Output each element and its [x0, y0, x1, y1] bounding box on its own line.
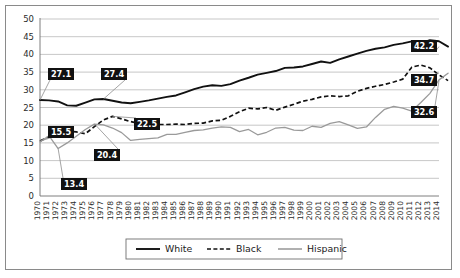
x-tick-1984: 1984 [160, 201, 169, 220]
x-tick-1998: 1998 [287, 201, 296, 220]
x-tick-1985: 1985 [169, 201, 178, 220]
line-chart: 0510152025303540455019701971197219731974… [6, 6, 451, 269]
y-tick-45: 45 [23, 32, 34, 42]
y-tick-25: 25 [23, 103, 34, 113]
callout-leader-13.4 [58, 149, 63, 178]
legend-label-hispanic: Hispanic [307, 243, 347, 254]
y-tick-15: 15 [23, 138, 34, 148]
x-tick-2003: 2003 [332, 201, 341, 220]
x-tick-1982: 1982 [142, 201, 151, 220]
legend-label-white: White [165, 243, 192, 254]
x-tick-1997: 1997 [278, 201, 287, 220]
x-tick-1979: 1979 [115, 201, 124, 220]
x-tick-1972: 1972 [51, 201, 60, 220]
x-tick-1983: 1983 [151, 201, 160, 220]
x-tick-1986: 1986 [178, 201, 187, 220]
x-tick-1975: 1975 [78, 201, 87, 220]
x-tick-2014: 2014 [432, 201, 441, 220]
x-tick-2005: 2005 [350, 201, 359, 220]
x-tick-1987: 1987 [187, 201, 196, 220]
x-tick-1990: 1990 [214, 201, 223, 220]
callout-leader-20.4 [94, 124, 118, 149]
callout-label-34.7: 34.7 [414, 75, 435, 85]
x-tick-2006: 2006 [359, 201, 368, 220]
x-tick-2002: 2002 [323, 201, 332, 220]
callout-label-27.4: 27.4 [104, 69, 125, 79]
x-tick-1988: 1988 [196, 201, 205, 220]
y-tick-50: 50 [23, 14, 34, 24]
y-tick-20: 20 [23, 120, 34, 130]
callout-label-22.5: 22.5 [137, 119, 158, 129]
x-tick-2013: 2013 [423, 201, 432, 220]
x-tick-2007: 2007 [369, 201, 378, 220]
callout-label-15.5: 15.5 [51, 127, 72, 137]
y-tick-40: 40 [23, 49, 34, 59]
callout-label-42.2: 42.2 [414, 41, 434, 51]
x-tick-2011: 2011 [405, 201, 414, 220]
x-tick-2009: 2009 [387, 201, 396, 220]
x-tick-1994: 1994 [251, 201, 260, 220]
x-tick-1989: 1989 [205, 201, 214, 220]
callout-label-20.4: 20.4 [97, 150, 118, 160]
x-tick-2012: 2012 [414, 201, 423, 220]
callout-label-27.1: 27.1 [51, 69, 72, 79]
callout-label-13.4: 13.4 [64, 179, 85, 189]
y-tick-10: 10 [23, 156, 34, 166]
x-tick-1995: 1995 [260, 201, 269, 220]
x-tick-2010: 2010 [396, 201, 405, 220]
x-tick-1978: 1978 [106, 201, 115, 220]
x-tick-2004: 2004 [341, 201, 350, 220]
x-tick-1992: 1992 [233, 201, 242, 220]
x-tick-2001: 2001 [314, 201, 323, 220]
y-tick-5: 5 [29, 173, 34, 183]
legend-label-black: Black [236, 243, 262, 254]
x-tick-1971: 1971 [42, 201, 51, 220]
x-tick-1977: 1977 [96, 201, 105, 220]
x-tick-1999: 1999 [296, 201, 305, 220]
y-tick-35: 35 [23, 67, 34, 77]
y-tick-30: 30 [23, 85, 34, 95]
y-tick-0: 0 [29, 191, 34, 201]
x-tick-1974: 1974 [69, 201, 78, 220]
x-tick-1976: 1976 [87, 201, 96, 220]
x-tick-2008: 2008 [378, 201, 387, 220]
x-tick-1993: 1993 [242, 201, 251, 220]
x-tick-1991: 1991 [223, 201, 232, 220]
callout-label-32.6: 32.6 [414, 107, 435, 117]
callout-leader-22.5 [113, 116, 136, 118]
chart-frame: 0510152025303540455019701971197219731974… [5, 5, 452, 270]
x-tick-1981: 1981 [133, 201, 142, 220]
x-tick-1970: 1970 [33, 201, 42, 220]
x-tick-1980: 1980 [124, 201, 133, 220]
x-tick-2000: 2000 [305, 201, 314, 220]
x-tick-1996: 1996 [269, 201, 278, 220]
x-tick-1973: 1973 [60, 201, 69, 220]
